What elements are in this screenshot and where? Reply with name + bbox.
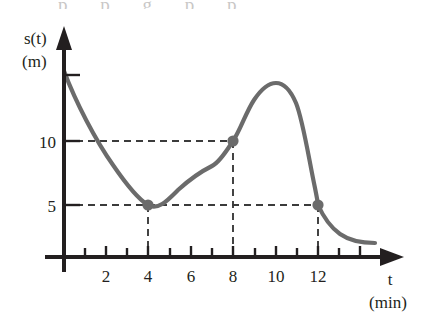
graph-svg: 10 5 2 4 6 8 10 12 s(t) (m) t (min) xyxy=(0,0,424,322)
guide-lines xyxy=(64,141,318,250)
point-t12-marker xyxy=(312,199,323,210)
y-tick-label-5: 5 xyxy=(48,197,57,216)
y-axis-label-unit: (m) xyxy=(22,52,47,71)
x-tick-label-4: 4 xyxy=(144,267,153,286)
x-axis-arrow xyxy=(380,248,404,266)
x-tick-label-2: 2 xyxy=(102,267,111,286)
axes xyxy=(45,44,386,272)
y-axis-label-main: s(t) xyxy=(24,29,47,48)
x-tick-label-6: 6 xyxy=(187,267,196,286)
point-t8-marker xyxy=(227,135,238,146)
y-tick-label-10: 10 xyxy=(39,133,56,152)
point-t4-marker xyxy=(142,199,153,210)
x-tick-label-10: 10 xyxy=(268,267,285,286)
x-tick-label-8: 8 xyxy=(229,267,238,286)
curve-s-of-t xyxy=(64,71,375,243)
y-axis-arrow xyxy=(56,26,72,50)
figure-canvas: p p g p p xyxy=(0,0,424,322)
x-tick-label-12: 12 xyxy=(310,267,327,286)
x-axis-label-unit: (min) xyxy=(369,293,407,312)
x-axis-label-main: t xyxy=(388,270,393,289)
